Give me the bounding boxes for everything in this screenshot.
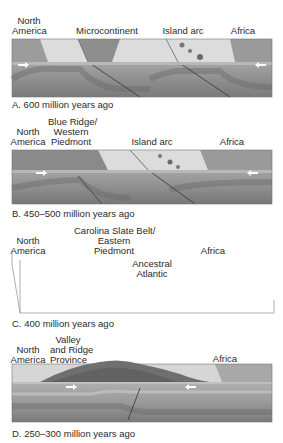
caption-d: D. 250–300 million years ago: [12, 428, 135, 439]
block-diagram-d: [10, 360, 275, 426]
label-microcontinent: Microcontinent: [74, 26, 140, 36]
block-diagram-c-outline: [0, 250, 283, 320]
label-island-arc-b: Island arc: [131, 137, 173, 147]
label-island-arc-a: Island arc: [162, 26, 204, 36]
block-diagram-a: [10, 37, 275, 99]
label-north-america-b: North America: [10, 127, 46, 147]
label-africa-b: Africa: [217, 137, 247, 147]
label-blue-ridge: Blue Ridge/ Western Piedmont: [48, 117, 94, 147]
block-diagram-b: [10, 148, 275, 206]
label-north-america-a: North America: [12, 16, 46, 36]
label-africa-a: Africa: [228, 26, 258, 36]
caption-b: B. 450–500 million years ago: [12, 208, 135, 219]
caption-a: A. 600 million years ago: [12, 99, 113, 110]
caption-c: C. 400 million years ago: [12, 318, 114, 329]
